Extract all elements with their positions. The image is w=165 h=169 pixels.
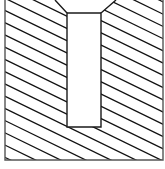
background [0,0,165,169]
section-diagram [0,0,165,169]
